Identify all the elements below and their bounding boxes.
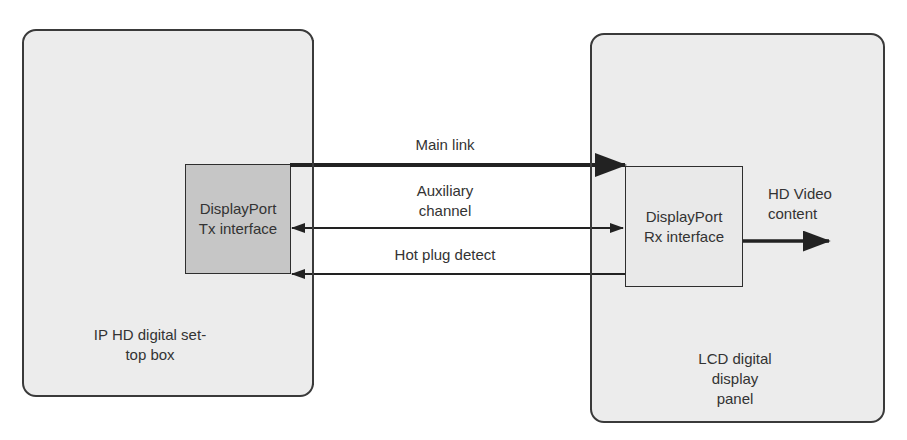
- lcd-panel-label-line3: panel: [670, 389, 800, 409]
- lcd-panel-label-line1: LCD digital: [670, 349, 800, 369]
- rx-interface-label-line2: Rx interface: [644, 227, 724, 247]
- set-top-box-label-line2: top box: [60, 345, 240, 365]
- hot-plug-detect-label: Hot plug detect: [360, 245, 530, 265]
- lcd-panel-label-line2: display: [670, 369, 800, 389]
- aux-channel-label: Auxiliary channel: [380, 181, 510, 221]
- hd-video-content-label: HD Video content: [768, 184, 858, 224]
- aux-channel-label-line2: channel: [380, 201, 510, 221]
- tx-interface-label-line2: Tx interface: [199, 219, 277, 239]
- set-top-box-label: IP HD digital set- top box: [60, 325, 240, 365]
- tx-interface-label-line1: DisplayPort: [200, 199, 277, 219]
- set-top-box-label-line1: IP HD digital set-: [60, 325, 240, 345]
- displayport-tx-interface: DisplayPort Tx interface: [185, 164, 291, 274]
- displayport-rx-interface: DisplayPort Rx interface: [625, 166, 743, 287]
- main-link-label: Main link: [380, 135, 510, 155]
- aux-channel-label-line1: Auxiliary: [380, 181, 510, 201]
- lcd-panel-label: LCD digital display panel: [670, 349, 800, 409]
- hd-video-label-line2: content: [768, 204, 858, 224]
- hd-video-label-line1: HD Video: [768, 184, 858, 204]
- rx-interface-label-line1: DisplayPort: [646, 207, 723, 227]
